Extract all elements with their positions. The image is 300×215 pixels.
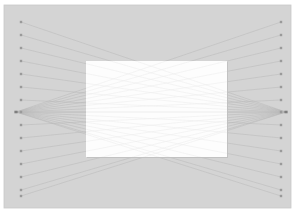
graph-node-marker bbox=[20, 34, 22, 36]
graph-node-marker bbox=[20, 124, 22, 126]
graph-node-marker bbox=[280, 73, 282, 75]
graph-node-marker bbox=[20, 73, 22, 75]
diagram-svg bbox=[0, 0, 300, 215]
convergence-point-marker bbox=[14, 111, 17, 114]
graph-node-marker bbox=[20, 150, 22, 152]
graph-node-marker bbox=[280, 47, 282, 49]
graph-node-marker bbox=[20, 60, 22, 62]
graph-node-marker bbox=[280, 189, 282, 191]
graph-node-marker bbox=[280, 99, 282, 101]
graph-node-marker bbox=[20, 189, 22, 191]
graph-node-marker bbox=[20, 111, 22, 113]
graph-node-marker bbox=[20, 137, 22, 139]
graph-node-marker bbox=[20, 176, 22, 178]
graph-node-marker bbox=[20, 21, 22, 23]
figure-canvas bbox=[0, 0, 300, 215]
graph-node-marker bbox=[280, 124, 282, 126]
graph-node-marker bbox=[280, 21, 282, 23]
graph-node-marker bbox=[280, 60, 282, 62]
graph-node-marker bbox=[280, 163, 282, 165]
graph-node-marker bbox=[280, 34, 282, 36]
graph-node-marker bbox=[20, 195, 22, 197]
graph-node-marker bbox=[20, 99, 22, 101]
graph-node-marker bbox=[20, 47, 22, 49]
graph-node-marker bbox=[280, 176, 282, 178]
graph-node-marker bbox=[280, 195, 282, 197]
graph-node-marker bbox=[20, 163, 22, 165]
graph-node-marker bbox=[280, 150, 282, 152]
convergence-point-marker bbox=[284, 111, 287, 114]
graph-node-marker bbox=[280, 137, 282, 139]
graph-node-marker bbox=[280, 111, 282, 113]
graph-node-marker bbox=[280, 86, 282, 88]
graph-node-marker bbox=[20, 86, 22, 88]
